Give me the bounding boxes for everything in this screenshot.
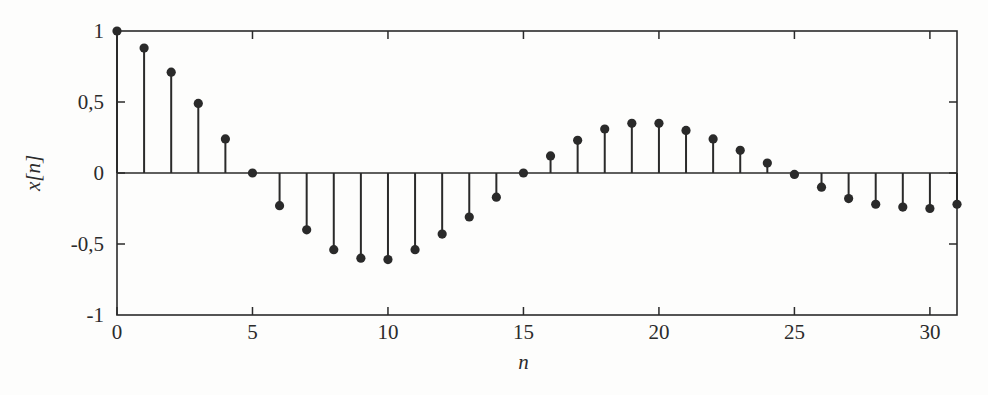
x-tick-label-0: 0 [112, 320, 123, 344]
stem-marker-10 [383, 255, 392, 264]
stem-marker-22 [709, 134, 718, 143]
stem-marker-30 [925, 204, 934, 213]
x-tick-label-20: 20 [648, 320, 669, 344]
stem-marker-18 [600, 124, 609, 133]
stem-marker-17 [573, 136, 582, 145]
stem-marker-31 [952, 200, 961, 209]
stem-marker-14 [492, 193, 501, 202]
stem-plot-figure: 051015202530-1-0,500,51nx[n] [0, 0, 988, 395]
plot-canvas: 051015202530-1-0,500,51nx[n] [0, 0, 988, 395]
y-tick-label-0: 0 [94, 161, 105, 185]
stem-marker-21 [681, 126, 690, 135]
x-tick-label-25: 25 [784, 320, 805, 344]
stem-marker-5 [248, 168, 257, 177]
stem-marker-23 [736, 146, 745, 155]
stem-marker-11 [410, 245, 419, 254]
stem-marker-19 [627, 119, 636, 128]
stem-marker-29 [898, 202, 907, 211]
y-tick-label-1: 1 [94, 19, 105, 43]
stem-marker-26 [817, 183, 826, 192]
x-tick-label-15: 15 [513, 320, 534, 344]
y-tick-label--1: -1 [87, 303, 105, 327]
stem-marker-25 [790, 170, 799, 179]
stem-marker-13 [465, 212, 474, 221]
stem-marker-20 [654, 119, 663, 128]
stem-marker-6 [275, 201, 284, 210]
stem-marker-9 [356, 254, 365, 263]
stem-marker-4 [221, 134, 230, 143]
stem-marker-1 [139, 43, 148, 52]
stem-marker-2 [167, 68, 176, 77]
stem-marker-7 [302, 225, 311, 234]
stem-marker-24 [763, 158, 772, 167]
x-tick-label-30: 30 [919, 320, 940, 344]
y-axis-title: x[n] [21, 155, 45, 192]
stem-marker-12 [438, 229, 447, 238]
x-tick-label-5: 5 [247, 320, 258, 344]
stem-marker-3 [194, 99, 203, 108]
stem-marker-28 [871, 200, 880, 209]
x-tick-label-10: 10 [377, 320, 398, 344]
stem-marker-27 [844, 194, 853, 203]
y-tick-label-0.5: 0,5 [78, 90, 104, 114]
stem-marker-15 [519, 168, 528, 177]
stem-marker-0 [112, 26, 121, 35]
stem-marker-16 [546, 151, 555, 160]
stem-marker-8 [329, 245, 338, 254]
y-tick-label--0.5: -0,5 [71, 232, 104, 256]
x-axis-title: n [518, 350, 529, 374]
